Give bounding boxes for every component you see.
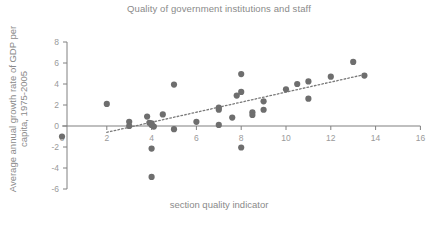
data-point	[126, 123, 132, 129]
data-point	[216, 107, 222, 113]
trendline	[107, 75, 365, 133]
data-point	[249, 112, 255, 118]
data-point	[193, 119, 199, 125]
x-tick-label: 16	[416, 133, 426, 143]
data-point	[294, 81, 300, 87]
data-point	[305, 96, 311, 102]
y-tick-label: -4	[51, 163, 59, 173]
x-tick-label: 6	[194, 133, 199, 143]
y-tick-label: 2	[54, 100, 59, 110]
scatter-chart-figure: Quality of government institutions and s…	[0, 0, 438, 226]
data-point	[59, 133, 65, 139]
data-point	[261, 98, 267, 104]
data-point	[238, 71, 244, 77]
x-tick-label: 4	[149, 133, 154, 143]
data-point	[160, 111, 166, 117]
y-tick-label: 6	[54, 58, 59, 68]
data-point	[361, 73, 367, 79]
x-tick-label: 8	[239, 133, 244, 143]
x-axis: 0246810121416	[60, 126, 426, 143]
data-point	[261, 107, 267, 113]
data-point	[144, 113, 150, 119]
data-point	[151, 123, 157, 129]
x-tick-label: 14	[371, 133, 381, 143]
plot-area: -6-4-202468 0246810121416	[0, 0, 438, 226]
data-point	[238, 89, 244, 95]
data-point	[238, 144, 244, 150]
data-point	[328, 74, 334, 80]
data-point	[171, 81, 177, 87]
data-point	[305, 78, 311, 84]
data-point	[149, 145, 155, 151]
x-tick-label: 10	[281, 133, 291, 143]
x-tick-label: 12	[326, 133, 336, 143]
data-point	[229, 115, 235, 121]
data-point	[216, 122, 222, 128]
data-points	[59, 59, 368, 180]
data-point	[283, 86, 289, 92]
data-point	[171, 126, 177, 132]
data-point	[149, 174, 155, 180]
y-tick-label: 0	[54, 121, 59, 131]
x-tick-label: 2	[104, 133, 109, 143]
y-tick-label: -6	[51, 184, 59, 194]
data-point	[350, 59, 356, 65]
y-tick-label: 4	[54, 79, 59, 89]
y-tick-label: -2	[51, 142, 59, 152]
y-tick-label: 8	[54, 37, 59, 47]
data-point	[104, 101, 110, 107]
y-axis: -6-4-202468	[51, 37, 67, 194]
